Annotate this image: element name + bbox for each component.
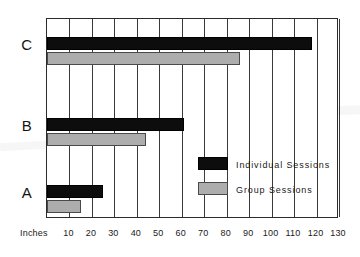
bar-a-group [47, 200, 81, 213]
x-tick-label-70: 70 [191, 228, 215, 238]
x-tick-label-20: 20 [79, 228, 103, 238]
x-tick-label-120: 120 [304, 228, 328, 238]
bar-a-individual [47, 185, 103, 198]
gridline-120 [317, 19, 318, 217]
x-tick-label-30: 30 [101, 228, 125, 238]
bar-c-individual [47, 37, 312, 50]
legend-swatch-group [198, 182, 228, 195]
x-tick-label-40: 40 [124, 228, 148, 238]
category-label-c: C [14, 36, 40, 53]
bar-c-group [47, 52, 240, 65]
bar-b-individual [47, 118, 184, 131]
x-tick-label-100: 100 [259, 228, 283, 238]
x-tick-label-60: 60 [169, 228, 193, 238]
x-tick-label-50: 50 [146, 228, 170, 238]
x-tick-label-90: 90 [236, 228, 260, 238]
x-tick-label-130: 130 [326, 228, 350, 238]
bar-chart: C B A Inches 102030405060708090100110120… [0, 0, 360, 257]
x-tick-label-110: 110 [281, 228, 305, 238]
category-label-a: A [14, 184, 40, 201]
x-axis-title: Inches [20, 228, 48, 238]
legend-label-group: Group Sessions [236, 185, 313, 195]
gridline-130 [339, 19, 340, 217]
category-label-b: B [14, 117, 40, 134]
bar-b-group [47, 133, 146, 146]
x-tick-label-80: 80 [214, 228, 238, 238]
legend-swatch-individual [198, 157, 228, 170]
x-tick-label-10: 10 [56, 228, 80, 238]
legend-label-individual: Individual Sessions [236, 160, 330, 170]
